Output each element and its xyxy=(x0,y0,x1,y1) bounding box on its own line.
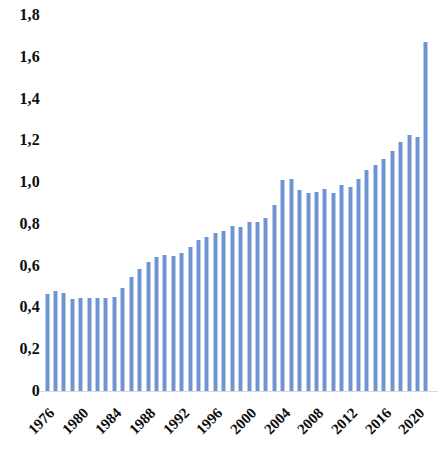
bar xyxy=(255,222,260,391)
bar xyxy=(407,135,412,391)
bar xyxy=(120,288,125,391)
bar xyxy=(196,240,201,391)
bar xyxy=(61,293,66,391)
bar xyxy=(356,179,361,391)
bar xyxy=(45,294,50,391)
x-axis-tick-label: 2008 xyxy=(294,405,327,438)
bar xyxy=(339,185,344,391)
bar xyxy=(87,298,92,391)
x-axis-tick-label: 1976 xyxy=(25,405,58,438)
x-axis-tick-label: 1992 xyxy=(160,405,193,438)
bar xyxy=(137,269,142,391)
x-axis-tick-label: 1988 xyxy=(126,405,159,438)
bar xyxy=(314,192,319,391)
bar xyxy=(381,159,386,391)
bar xyxy=(289,179,294,391)
bar xyxy=(390,151,395,391)
y-axis-tick-label: 1,4 xyxy=(0,91,40,107)
bar xyxy=(162,255,167,391)
bar xyxy=(263,218,268,391)
bar xyxy=(348,187,353,391)
x-axis-tick-label: 2004 xyxy=(261,405,294,438)
x-axis-tick-label: 2012 xyxy=(328,405,361,438)
bar xyxy=(398,142,403,391)
bar xyxy=(247,222,252,391)
y-axis-tick-label: 0,6 xyxy=(0,258,40,274)
bar xyxy=(146,262,151,392)
bar xyxy=(423,42,428,391)
x-axis: 1976198019841988199219962000200420082012… xyxy=(0,392,442,464)
bar xyxy=(179,253,184,391)
bar xyxy=(171,256,176,391)
y-axis-tick-label: 0,4 xyxy=(0,299,40,315)
y-axis-tick-label: 0,2 xyxy=(0,341,40,357)
x-axis-tick-label: 1984 xyxy=(92,405,125,438)
bar xyxy=(188,247,193,391)
bar xyxy=(221,231,226,391)
x-axis-tick-label: 1980 xyxy=(59,405,92,438)
bar xyxy=(415,137,420,391)
x-axis-tick-label: 2016 xyxy=(362,405,395,438)
bar xyxy=(230,226,235,391)
bar xyxy=(373,165,378,391)
bar xyxy=(78,298,83,391)
y-axis-tick-label: 0,8 xyxy=(0,216,40,232)
bar xyxy=(53,291,58,391)
bar xyxy=(204,237,209,391)
x-axis-tick-label: 2020 xyxy=(395,405,428,438)
x-axis-tick-label: 2000 xyxy=(227,405,260,438)
bar xyxy=(238,227,243,391)
bar xyxy=(112,297,117,391)
bar xyxy=(272,205,277,391)
y-axis-tick-label: 1,6 xyxy=(0,49,40,65)
bar xyxy=(306,193,311,391)
bar xyxy=(364,170,369,391)
bar xyxy=(95,298,100,391)
bar xyxy=(103,298,108,391)
x-axis-tick-label: 1996 xyxy=(193,405,226,438)
plot-area xyxy=(44,12,438,391)
bar xyxy=(331,193,336,391)
bar xyxy=(280,180,285,391)
y-axis: 1,81,61,41,21,00,80,60,40,20 xyxy=(0,0,40,400)
y-axis-tick-label: 1,8 xyxy=(0,7,40,23)
y-axis-tick-label: 1,0 xyxy=(0,174,40,190)
bar xyxy=(70,299,75,391)
bar xyxy=(297,190,302,391)
bar xyxy=(322,189,327,391)
bar-chart: 1,81,61,41,21,00,80,60,40,20 19761980198… xyxy=(0,0,442,464)
bar xyxy=(213,233,218,391)
y-axis-tick-label: 1,2 xyxy=(0,132,40,148)
bar xyxy=(154,257,159,391)
bar xyxy=(129,277,134,391)
